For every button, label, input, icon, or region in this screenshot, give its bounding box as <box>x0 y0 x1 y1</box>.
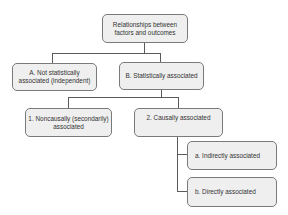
node-b-directly-associated: b. Directly associated <box>187 177 277 207</box>
root-node: Relationships between factors and outcom… <box>102 14 188 43</box>
connector-to-2 <box>178 97 179 108</box>
connector-to-b <box>160 53 161 62</box>
diagram-canvas: Relationships between factors and outcom… <box>0 0 288 215</box>
connector-2-trunk <box>177 137 178 192</box>
connector-to-b-branch <box>177 191 187 192</box>
connector-to-a-branch <box>177 154 187 155</box>
node-1-noncausally-associated: 1. Noncausally (secondarily) associated <box>25 108 112 137</box>
node-a-not-associated: A. Not statistically associated (indepen… <box>12 63 97 91</box>
connector-root-down <box>144 43 145 53</box>
connector-to-a <box>52 53 53 63</box>
connector-level2-bar <box>68 97 179 98</box>
node-2-causally-associated: 2. Causally associated <box>134 108 223 137</box>
connector-to-1 <box>68 97 69 108</box>
node-b-statistically-associated: B. Statistically associated <box>119 62 204 90</box>
connector-level1-bar <box>52 53 161 54</box>
node-a-indirectly-associated: a. Indirectly associated <box>187 141 277 170</box>
connector-b-down <box>161 90 162 97</box>
